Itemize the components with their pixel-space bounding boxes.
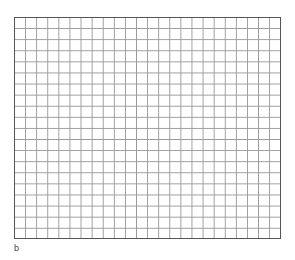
figure-canvas: b <box>0 0 295 260</box>
grid-paper <box>14 17 281 239</box>
panel-label: b <box>14 243 19 253</box>
